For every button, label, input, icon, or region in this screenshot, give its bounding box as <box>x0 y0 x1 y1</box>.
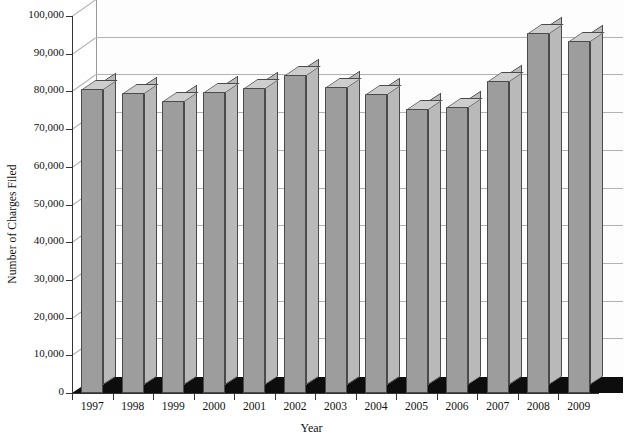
bar-front-face <box>243 88 265 393</box>
y-axis-tick-label: 10,000 <box>0 347 64 359</box>
y-axis-tick-label: 90,000 <box>0 46 64 58</box>
bar-side-face <box>590 25 603 385</box>
x-axis-tick <box>315 393 316 400</box>
y-axis-tick <box>66 318 73 319</box>
x-axis-tick <box>518 393 519 400</box>
x-axis-tick <box>234 393 235 400</box>
gridline-connector <box>72 37 96 54</box>
x-axis-tick-label: 2001 <box>243 400 266 412</box>
y-axis-tick-label: 80,000 <box>0 83 64 95</box>
y-axis-tick <box>66 129 73 130</box>
bar-front-face <box>568 41 590 393</box>
x-axis-tick <box>356 393 357 400</box>
bar-front-face <box>446 107 468 393</box>
bar-side-face <box>144 76 157 384</box>
bar-side-face <box>347 70 360 385</box>
y-axis-tick-label: 0 <box>0 385 64 397</box>
bar-front-face <box>487 81 509 393</box>
bar-front-face <box>365 94 387 393</box>
bar-2003 <box>325 87 347 393</box>
y-axis-tick-label: 50,000 <box>0 197 64 209</box>
x-axis-tick <box>437 393 438 400</box>
y-axis-tick-label: 20,000 <box>0 310 64 322</box>
y-axis-tick-label: 30,000 <box>0 272 64 284</box>
bar-2008 <box>527 33 549 393</box>
y-axis-tick <box>66 355 73 356</box>
bar-side-face <box>103 72 116 385</box>
bar-side-face <box>184 85 197 385</box>
bar-front-face <box>162 101 184 393</box>
x-axis-tick-label: 1998 <box>121 400 144 412</box>
x-axis-tick <box>558 393 559 400</box>
x-axis-tick <box>477 393 478 400</box>
y-axis-tick <box>66 54 73 55</box>
x-axis-line <box>72 393 599 394</box>
y-axis-tick <box>66 167 73 168</box>
bar-front-face <box>122 93 144 393</box>
gridline-connector <box>72 0 96 16</box>
y-axis-tick-label: 100,000 <box>0 8 64 20</box>
bar-side-face <box>306 58 319 385</box>
x-axis-tick <box>72 393 73 400</box>
bar-side-face <box>428 92 441 385</box>
bar-side-face <box>225 75 238 385</box>
bar-1997 <box>81 89 103 393</box>
x-axis-tick <box>396 393 397 400</box>
x-axis-tick-label: 2007 <box>486 400 509 412</box>
bar-front-face <box>203 92 225 393</box>
y-axis-tick <box>66 280 73 281</box>
bar-front-face <box>325 87 347 393</box>
x-axis-tick-label: 1999 <box>162 400 185 412</box>
bar-2009 <box>568 41 590 393</box>
x-axis-tick <box>275 393 276 400</box>
x-axis-tick <box>113 393 114 400</box>
x-axis-tick <box>194 393 195 400</box>
y-axis-tick-label: 70,000 <box>0 121 64 133</box>
y-axis-tick <box>66 205 73 206</box>
bar-front-face <box>406 109 428 393</box>
bar-2004 <box>365 94 387 393</box>
y-axis-tick-label: 60,000 <box>0 159 64 171</box>
bar-side-face <box>265 72 278 385</box>
bar-2001 <box>243 88 265 393</box>
bar-2005 <box>406 109 428 393</box>
y-axis-tick <box>66 16 73 17</box>
bar-front-face <box>527 33 549 393</box>
x-axis-tick-label: 2006 <box>446 400 469 412</box>
y-axis-tick <box>66 91 73 92</box>
x-axis-tick-label: 1997 <box>81 400 104 412</box>
bar-side-face <box>509 64 522 385</box>
bar-1998 <box>122 93 144 393</box>
y-axis-tick-label: 40,000 <box>0 234 64 246</box>
x-axis-tick-label: 2008 <box>527 400 550 412</box>
bar-2002 <box>284 75 306 393</box>
x-axis-title: Year <box>0 421 623 436</box>
x-axis-tick-label: 2003 <box>324 400 347 412</box>
x-axis-tick-label: 2005 <box>405 400 428 412</box>
bar-side-face <box>468 91 481 385</box>
bar-front-face <box>81 89 103 393</box>
bar-front-face <box>284 75 306 393</box>
bar-side-face <box>549 17 562 385</box>
bar-2007 <box>487 81 509 393</box>
x-axis-tick-label: 2009 <box>567 400 590 412</box>
bar-1999 <box>162 101 184 393</box>
x-axis-tick <box>153 393 154 400</box>
x-axis-tick-label: 2004 <box>365 400 388 412</box>
x-axis-tick-label: 2002 <box>283 400 306 412</box>
y-axis-tick <box>66 242 73 243</box>
bar-2006 <box>446 107 468 393</box>
x-axis-tick-label: 2000 <box>202 400 225 412</box>
x-axis-title-text: Year <box>300 421 322 435</box>
bar-side-face <box>387 77 400 385</box>
bar-2000 <box>203 92 225 393</box>
